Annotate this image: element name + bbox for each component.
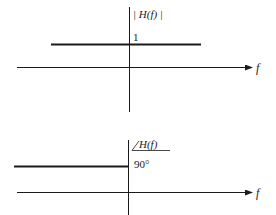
angle-symbol-slant: [132, 141, 139, 151]
phase-x-label: f: [256, 186, 261, 200]
magnitude-level-label: 1: [133, 31, 139, 43]
frequency-response-diagram: | H(f) | 1 f H(f) 90° f: [0, 0, 276, 215]
magnitude-plot: | H(f) | 1 f: [17, 7, 261, 112]
phase-y-label: H(f): [138, 138, 158, 151]
phase-level-label: 90°: [134, 158, 149, 170]
magnitude-y-label: | H(f) |: [133, 8, 163, 21]
phase-plot: H(f) 90° f: [14, 138, 261, 215]
magnitude-x-label: f: [256, 61, 261, 75]
